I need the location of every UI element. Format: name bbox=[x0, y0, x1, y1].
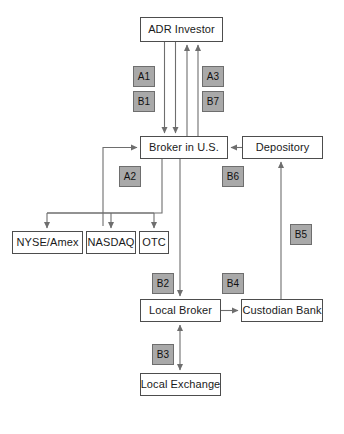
step-tag-label: B2 bbox=[157, 279, 170, 289]
step-tag-b5: B5 bbox=[290, 224, 312, 245]
node-custodian-bank[interactable]: Custodian Bank bbox=[241, 299, 323, 322]
step-tag-label: B6 bbox=[227, 172, 240, 182]
step-tag-a3: A3 bbox=[202, 66, 224, 87]
node-broker-in-us[interactable]: Broker in U.S. bbox=[140, 136, 228, 159]
node-label: ADR Investor bbox=[148, 24, 215, 35]
step-tag-label: A3 bbox=[207, 72, 220, 82]
adr-flow-diagram: ADR Investor Broker in U.S. Depository N… bbox=[0, 0, 344, 434]
node-label: Local Exchange bbox=[141, 379, 221, 390]
step-tag-a2: A2 bbox=[119, 166, 141, 187]
node-nyse-amex[interactable]: NYSE/Amex bbox=[12, 231, 83, 254]
node-label: Local Broker bbox=[149, 305, 212, 316]
step-tag-label: A2 bbox=[124, 172, 137, 182]
step-tag-label: B7 bbox=[207, 97, 220, 107]
node-local-broker[interactable]: Local Broker bbox=[140, 299, 221, 322]
node-label: Broker in U.S. bbox=[149, 142, 219, 153]
step-tag-b3: B3 bbox=[152, 344, 174, 365]
node-label: NYSE/Amex bbox=[16, 237, 78, 248]
step-tag-label: A1 bbox=[138, 72, 151, 82]
step-tag-b6: B6 bbox=[222, 166, 244, 187]
step-tag-b2: B2 bbox=[152, 273, 174, 294]
node-label: OTC bbox=[142, 237, 166, 248]
step-tag-label: B1 bbox=[138, 97, 151, 107]
node-adr-investor[interactable]: ADR Investor bbox=[140, 17, 223, 42]
step-tag-b4: B4 bbox=[222, 273, 244, 294]
step-tag-label: B3 bbox=[157, 350, 170, 360]
step-tag-b1: B1 bbox=[133, 91, 155, 112]
node-label: NASDAQ bbox=[87, 237, 134, 248]
edge-broker-to-exchanges bbox=[47, 159, 162, 213]
node-otc[interactable]: OTC bbox=[139, 231, 169, 254]
node-nasdaq[interactable]: NASDAQ bbox=[86, 231, 136, 254]
step-tag-label: B5 bbox=[295, 230, 308, 240]
node-depository[interactable]: Depository bbox=[242, 136, 323, 159]
node-label: Custodian Bank bbox=[242, 305, 321, 316]
step-tag-b7: B7 bbox=[202, 91, 224, 112]
step-tag-label: B4 bbox=[227, 279, 240, 289]
node-local-exchange[interactable]: Local Exchange bbox=[140, 373, 221, 396]
node-label: Depository bbox=[256, 142, 310, 153]
step-tag-a1: A1 bbox=[133, 66, 155, 87]
diagram-connectors bbox=[0, 0, 344, 434]
